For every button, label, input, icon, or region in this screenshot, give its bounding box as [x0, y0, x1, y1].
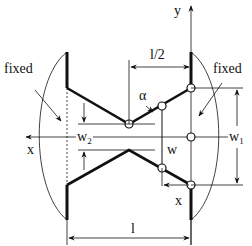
nodes — [125, 84, 195, 189]
fixed-label-left: fixed — [4, 62, 33, 76]
half-length-dimension — [129, 60, 189, 124]
length-dimension — [67, 220, 191, 245]
x-axis-label-bottom: x — [175, 194, 182, 208]
fixed-label-right: fixed — [213, 62, 242, 76]
w1-label: w1 — [228, 130, 245, 146]
node-upper-x — [158, 102, 166, 110]
node-center — [187, 133, 195, 141]
alpha-label: α — [139, 89, 146, 103]
y-axis-label: y — [174, 4, 181, 18]
diagram-canvas: fixed fixed y x x l/2 l α w w1 w2 — [0, 0, 252, 246]
length-label: l — [131, 222, 135, 236]
w2-label: w2 — [76, 130, 93, 146]
diagram-svg — [0, 0, 252, 246]
w-label: w — [167, 143, 177, 157]
half-length-label: l/2 — [150, 48, 165, 62]
x-axis-label-left: x — [27, 143, 34, 157]
